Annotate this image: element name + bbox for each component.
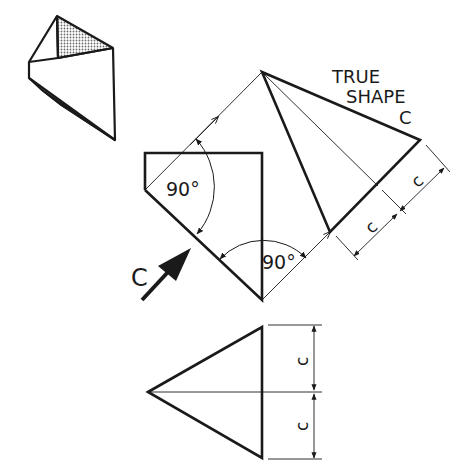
true-shape-dim-upper: c <box>407 171 428 192</box>
shaded-edge-face <box>42 90 115 140</box>
title-c: C <box>399 107 412 128</box>
view-arrow-c <box>142 248 191 300</box>
plan-dim-upper: c <box>292 357 312 366</box>
true-shape-dim-lower: c <box>361 217 382 238</box>
view-arrow-label: C <box>131 264 148 292</box>
plan-dim-lower: c <box>292 422 312 431</box>
angle-label-90-lower: 90° <box>262 251 296 273</box>
shaded-face <box>57 16 113 58</box>
title-true: TRUE <box>331 66 380 87</box>
title-shape: SHAPE <box>346 86 406 107</box>
technical-drawing: 90° 90° C TRUE SHAPE C c c c c <box>0 0 466 474</box>
true-shape-dimensions <box>336 145 450 260</box>
angle-label-90-upper: 90° <box>166 178 200 200</box>
angle-arcs <box>196 139 306 259</box>
plan-view <box>148 327 322 458</box>
isometric-view <box>29 16 115 140</box>
